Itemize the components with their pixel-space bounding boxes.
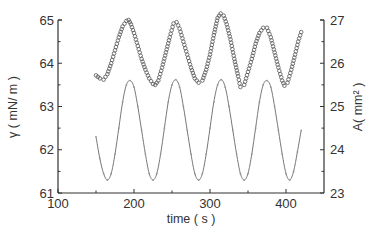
x-tick-label: 300	[199, 196, 221, 211]
area-marker	[186, 129, 188, 131]
y-right-axis-title: A( mm² )	[351, 83, 365, 132]
area-marker	[141, 129, 143, 131]
x-axis-title: time ( s )	[167, 212, 216, 226]
area-marker	[110, 173, 112, 175]
area-marker	[274, 106, 276, 108]
area-marker	[243, 179, 245, 181]
area-marker	[194, 173, 196, 175]
y-right-tick-label: 24	[330, 142, 344, 157]
gamma-marker	[151, 82, 155, 86]
series-gamma-circles	[94, 12, 303, 89]
gamma-marker	[237, 78, 241, 82]
area-marker	[95, 136, 97, 138]
y-right-tick-label: 27	[330, 13, 344, 28]
area-marker	[281, 153, 283, 155]
area-marker	[137, 106, 139, 108]
area-marker	[251, 153, 253, 155]
dual-axis-line-chart: 10020030040061626364652324252627 time ( …	[0, 0, 372, 236]
area-marker	[148, 173, 150, 175]
area-marker	[240, 173, 242, 175]
area-marker	[160, 153, 162, 155]
area-marker	[228, 106, 230, 108]
area-marker	[278, 129, 280, 131]
area-marker	[103, 173, 105, 175]
area-marker	[183, 106, 185, 108]
area-marker	[198, 179, 200, 181]
area-marker	[164, 127, 166, 129]
area-marker	[217, 84, 219, 86]
area-marker	[202, 173, 204, 175]
area-marker	[122, 101, 124, 103]
y-right-tick-label: 23	[330, 186, 344, 201]
y-left-axis-title: γ ( mN/ m )	[6, 76, 20, 138]
area-marker	[266, 80, 268, 82]
gamma-marker	[238, 82, 242, 86]
area-marker	[209, 127, 211, 129]
series-area-line	[95, 79, 302, 181]
x-tick-label: 200	[123, 196, 145, 211]
area-marker	[300, 129, 302, 131]
gamma-marker	[170, 29, 174, 33]
y-left-tick-label: 63	[40, 99, 54, 114]
area-marker	[145, 153, 147, 155]
area-marker	[262, 84, 264, 86]
area-marker	[107, 179, 109, 181]
area-marker	[175, 79, 177, 81]
area-marker	[167, 101, 169, 103]
gamma-marker	[239, 85, 243, 89]
area-marker	[179, 86, 181, 88]
area-marker	[114, 153, 116, 155]
area-marker	[213, 101, 215, 103]
y-left-tick-label: 65	[40, 13, 54, 28]
gamma-marker	[169, 32, 173, 36]
gamma-marker	[261, 26, 265, 30]
area-marker	[270, 86, 272, 88]
y-left-tick-label: 62	[40, 142, 54, 157]
x-tick-label: 400	[275, 196, 297, 211]
area-marker	[152, 179, 154, 181]
area-marker	[171, 84, 173, 86]
axis-tick-labels: 10020030040061626364652324252627	[40, 13, 345, 212]
area-marker	[224, 86, 226, 88]
area-marker	[255, 127, 257, 129]
y-right-tick-label: 26	[330, 56, 344, 71]
area-marker	[232, 129, 234, 131]
area-marker	[221, 79, 223, 81]
area-marker	[129, 80, 131, 82]
area-marker	[297, 151, 299, 153]
y-right-tick-label: 25	[330, 99, 344, 114]
area-marker	[259, 101, 261, 103]
area-line	[96, 80, 301, 180]
area-marker	[190, 153, 192, 155]
area-marker	[236, 153, 238, 155]
gamma-marker	[171, 25, 175, 29]
area-marker	[285, 173, 287, 175]
area-marker	[126, 84, 128, 86]
area-marker	[99, 158, 101, 160]
y-left-tick-label: 64	[40, 56, 54, 71]
y-left-tick-label: 61	[40, 186, 54, 201]
area-marker	[205, 153, 207, 155]
area-marker	[133, 86, 135, 88]
area-marker	[293, 170, 295, 172]
area-marker	[156, 173, 158, 175]
area-marker	[118, 127, 120, 129]
area-marker	[289, 179, 291, 181]
area-marker	[247, 173, 249, 175]
